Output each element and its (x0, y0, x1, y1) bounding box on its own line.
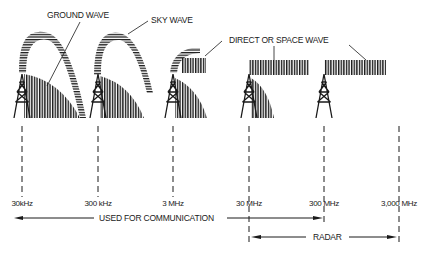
radar-range-arrow: RADAR (251, 232, 397, 242)
ground-wave-label: GROUND WAVE (47, 10, 110, 20)
ground-wave-2 (100, 76, 144, 118)
direct-wave-leader-3 (349, 45, 366, 60)
communication-range-arrow: USED FOR COMMUNICATION (14, 213, 323, 223)
direct-wave-4 (249, 60, 309, 75)
tower-group-5 (316, 60, 386, 118)
antenna-tower-icon (316, 74, 332, 118)
direct-wave-leader-1 (205, 41, 222, 56)
arrowhead-left-icon (251, 235, 261, 239)
arrowhead-left-icon (14, 216, 23, 220)
direct-wave-3 (182, 58, 206, 73)
communication-label: USED FOR COMMUNICATION (99, 213, 214, 223)
freq-label-30khz: 30kHz (11, 199, 32, 208)
radio-wave-propagation-diagram: GROUND WAVE SKY WAVE DIRECT OR SPACE WAV… (0, 0, 433, 253)
arrowhead-right-icon (387, 235, 397, 239)
arrowhead-right-icon (313, 216, 323, 220)
freq-label-3mhz: 3 MHz (162, 199, 184, 208)
tower-group-4 (241, 60, 309, 118)
direct-wave-label: DIRECT OR SPACE WAVE (229, 35, 329, 45)
ground-wave-4 (251, 78, 274, 118)
freq-label-3000mhz: 3,000 MHz (381, 199, 417, 208)
direct-wave-5 (324, 60, 386, 75)
sky-wave-label: SKY WAVE (151, 15, 193, 25)
freq-label-30mhz: 30 MHz (236, 199, 262, 208)
freq-label-300mhz: 300 MHz (309, 199, 339, 208)
frequency-markers (22, 126, 399, 243)
sky-wave-leader (128, 21, 148, 34)
tower-group-1 (14, 32, 86, 118)
tower-group-3 (165, 48, 207, 118)
tower-group-2 (90, 33, 153, 118)
radar-label: RADAR (313, 232, 342, 242)
freq-label-300khz: 300 kHz (84, 199, 112, 208)
